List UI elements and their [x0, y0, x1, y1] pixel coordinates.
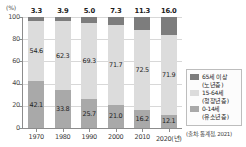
legend-label-sub: (노년층): [202, 81, 228, 89]
bar-segment-working-age: 62.3: [55, 21, 71, 90]
bar-segment-working-age: 71.7: [108, 25, 124, 105]
y-tick-label-40: 40: [0, 80, 20, 87]
bar-column: 62.333.83.9: [55, 17, 71, 128]
legend-label-main: 0-14세: [202, 105, 229, 113]
segment-value-label: 33.8: [56, 105, 69, 113]
source-note: (출처: 통계청, 2021): [186, 130, 232, 138]
bar-segment-children: 12.1: [161, 115, 177, 128]
y-tick-label-100: 100: [0, 14, 20, 21]
y-tick-label-60: 60: [0, 58, 20, 65]
segment-value-label: 25.7: [83, 110, 96, 118]
plot-area: 54.642.13.362.333.83.969.325.75.071.721.…: [23, 17, 182, 128]
segment-value-label: 71.9: [162, 71, 175, 79]
bar-column: 71.721.07.3: [108, 17, 124, 128]
x-tickmark: [89, 129, 90, 132]
legend-label-sub: (유소년층): [202, 113, 229, 121]
segment-value-label: 62.3: [56, 52, 69, 60]
bar-segment-elderly: [108, 17, 124, 25]
bar-segment-children: 33.8: [55, 90, 71, 128]
legend-item-2[interactable]: 0-14세(유소년층): [190, 105, 238, 120]
x-tickmark: [142, 129, 143, 132]
bar-top-value-label: 7.3: [102, 7, 130, 15]
chart-legend: 65세 이상(노년층)15-64세(청장년층)0-14세(유소년층): [186, 69, 242, 126]
legend-swatch-icon: [190, 106, 199, 112]
x-tick-label-2020: 2020(년): [147, 133, 191, 143]
bar-segment-elderly: [134, 17, 150, 30]
legend-label-main: 65세 이상: [202, 73, 228, 81]
bar-segment-children: 25.7: [81, 99, 97, 128]
bar-segment-working-age: 69.3: [81, 23, 97, 100]
bar-column: 71.912.116.0: [161, 17, 177, 128]
population-structure-chart: (%) 020406080100 54.642.13.362.333.83.96…: [0, 0, 246, 147]
x-tickmark: [116, 129, 117, 132]
y-tickmark-0: [19, 128, 23, 129]
bar-segment-children: 42.1: [28, 81, 44, 128]
y-tick-label-80: 80: [0, 36, 20, 43]
bar-column: 54.642.13.3: [28, 17, 44, 128]
bar-column: 72.516.211.3: [134, 17, 150, 128]
bar-top-value-label: 3.3: [22, 7, 50, 15]
x-axis-line: [22, 128, 182, 129]
legend-label-sub: (청장년층): [202, 97, 229, 105]
bar-segment-working-age: 72.5: [134, 30, 150, 110]
segment-value-label: 54.6: [30, 47, 43, 55]
legend-label-block: 65세 이상(노년층): [202, 73, 228, 88]
legend-label-main: 15-64세: [202, 89, 229, 97]
bar-top-value-label: 5.0: [75, 7, 103, 15]
y-tick-label-0: 0: [0, 125, 20, 132]
bar-top-value-label: 16.0: [155, 7, 183, 15]
x-tickmark: [169, 129, 170, 132]
y-tick-label-20: 20: [0, 102, 20, 109]
segment-value-label: 71.7: [109, 61, 122, 69]
bar-segment-working-age: 54.6: [28, 21, 44, 82]
x-tickmark: [36, 129, 37, 132]
legend-label-block: 0-14세(유소년층): [202, 105, 229, 120]
segment-value-label: 42.1: [30, 101, 43, 109]
legend-item-0[interactable]: 65세 이상(노년층): [190, 73, 238, 88]
segment-value-label: 12.1: [162, 117, 175, 125]
bar-segment-working-age: 71.9: [161, 35, 177, 115]
segment-value-label: 69.3: [83, 57, 96, 65]
x-tickmark: [63, 129, 64, 132]
bar-segment-children: 21.0: [108, 105, 124, 128]
segment-value-label: 16.2: [136, 115, 149, 123]
bar-top-value-label: 3.9: [49, 7, 77, 15]
legend-label-block: 15-64세(청장년층): [202, 89, 229, 104]
segment-value-label: 21.0: [109, 112, 122, 120]
segment-value-label: 72.5: [136, 66, 149, 74]
legend-swatch-icon: [190, 90, 199, 96]
legend-item-1[interactable]: 15-64세(청장년층): [190, 89, 238, 104]
y-axis-unit-label: (%): [6, 4, 16, 11]
legend-swatch-icon: [190, 74, 199, 80]
bar-top-value-label: 11.3: [128, 7, 156, 15]
bar-column: 69.325.75.0: [81, 17, 97, 128]
bar-segment-children: 16.2: [134, 110, 150, 128]
bar-segment-elderly: [161, 17, 177, 35]
